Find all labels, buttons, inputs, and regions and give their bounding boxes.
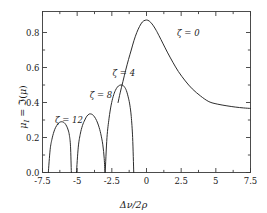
y-axis-title: μI = ℑ(μ) (17, 85, 31, 129)
y-tick-label: 0.2 (16, 133, 40, 143)
x-tick-label: 0 (144, 176, 149, 186)
curve-label-8: ζ = 8 (90, 90, 113, 100)
y-axis-imaginary-symbol: ℑ (17, 98, 28, 105)
y-axis-paren-open: ( (17, 95, 28, 99)
x-tick-label: 5 (213, 176, 218, 186)
x-tick-label: 7.5 (244, 176, 258, 186)
y-axis-mu: μ (17, 122, 28, 128)
axis-ticks (43, 12, 251, 173)
y-tick-label: 0.0 (16, 168, 40, 178)
y-tick-label: 0.6 (16, 63, 40, 73)
y-axis-equals: = (17, 105, 28, 119)
curve-label-12: ζ = 12 (55, 115, 83, 125)
curve-12 (48, 122, 71, 173)
figure-container: -7.5-5-2.502.557.5 0.00.20.40.60.8 ζ = 0… (0, 0, 267, 213)
x-axis-title: Δν/2ρ (120, 199, 147, 210)
y-tick-label: 0.8 (16, 28, 40, 38)
curve-label-0: ζ = 0 (177, 28, 200, 38)
x-tick-label: -2.5 (104, 176, 120, 186)
plot-frame (43, 12, 251, 173)
curve-label-4: ζ = 4 (113, 68, 136, 78)
data-curves (48, 20, 250, 172)
y-axis-paren-close: ) (17, 85, 28, 89)
axes-frame (43, 12, 251, 173)
y-axis-argument: μ (17, 88, 28, 94)
x-tick-label: -5 (73, 176, 81, 186)
x-tick-label: 2.5 (174, 176, 188, 186)
